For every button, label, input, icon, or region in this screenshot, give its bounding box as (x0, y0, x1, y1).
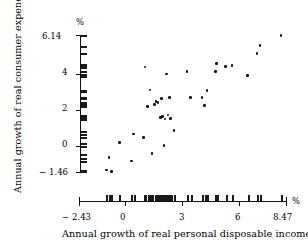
data-point (108, 156, 111, 159)
x-rug-mark-31 (226, 195, 228, 201)
y-rug-mark-19 (81, 102, 87, 104)
x-major-tick-2 (182, 201, 183, 206)
x-rug-mark-30 (217, 195, 219, 201)
y-rug-mark-31 (81, 67, 87, 69)
y-rug-mark-34 (81, 53, 87, 55)
y-rug-mark-2 (81, 161, 87, 163)
y-rug-mark-23 (81, 97, 87, 99)
data-point (130, 160, 133, 163)
data-point (146, 105, 149, 108)
x-rug-mark-35 (260, 195, 262, 201)
y-tick-label-minus1_46: − 1.46 (39, 167, 68, 177)
y-rug-mark-36 (81, 35, 87, 37)
data-point (173, 129, 176, 132)
x-tick-label-6: 6 (235, 212, 240, 222)
data-point (157, 101, 160, 104)
y-tick-label-6_14: 6.14 (42, 31, 61, 41)
y-rug-mark-3 (81, 158, 87, 160)
x-tick-label-3: 3 (179, 212, 184, 222)
y-rug-mark-35 (81, 46, 87, 48)
x-rug-mark-3 (119, 195, 121, 201)
y-rug-mark-29 (81, 71, 87, 73)
data-point (224, 65, 227, 68)
y-rug-mark-16 (81, 106, 87, 108)
y-rug-mark-12 (81, 118, 87, 120)
data-point (160, 97, 163, 100)
data-point (214, 70, 217, 73)
data-point (259, 44, 262, 47)
y-rug-mark-4 (81, 154, 87, 156)
x-rug-mark-0 (106, 195, 108, 201)
x-rug-mark-33 (248, 195, 250, 201)
data-point (163, 144, 166, 147)
data-point (168, 96, 171, 99)
x-rug-mark-2 (111, 195, 113, 201)
y-rug-mark-33 (81, 64, 87, 66)
data-point (256, 52, 259, 55)
y-axis-title: Annual growth of real consumer expenditu… (12, 0, 23, 193)
x-rug-mark-4 (131, 195, 133, 201)
x-rug-mark-23 (174, 195, 176, 201)
x-rug-mark-22 (171, 195, 173, 201)
x-rug-mark-36 (281, 195, 283, 201)
x-rug-mark-10 (152, 195, 154, 201)
data-point (206, 89, 209, 92)
data-point (110, 170, 113, 173)
scatter-plot-figure: % % Annual growth of real consumer expen… (0, 0, 308, 246)
data-point (144, 66, 147, 69)
y-rug-mark-25 (81, 90, 87, 92)
x-axis-unit-label: % (292, 196, 300, 206)
y-rug-mark-26 (81, 76, 87, 78)
y-rug-mark-9 (81, 131, 87, 133)
x-rug-mark-26 (202, 195, 204, 201)
y-rug-mark-6 (81, 143, 87, 145)
data-point (186, 70, 189, 73)
y-rug-mark-27 (81, 74, 87, 76)
x-tick-label-8_47: 8.47 (273, 212, 292, 222)
data-point (165, 73, 168, 76)
data-point (246, 74, 249, 77)
x-major-tick-1 (125, 201, 126, 206)
x-rug-mark-25 (191, 195, 193, 201)
data-point (151, 152, 154, 155)
x-tick-label-0: 0 (120, 212, 125, 222)
data-point (105, 169, 108, 172)
x-axis-cap-left (79, 197, 80, 206)
x-rug-mark-24 (187, 195, 189, 201)
y-axis-unit-label: % (76, 17, 84, 27)
data-point (164, 118, 167, 121)
y-major-tick-2 (76, 110, 81, 111)
y-rug-mark-7 (81, 137, 87, 139)
data-point (169, 117, 172, 120)
x-rug-mark-32 (232, 195, 234, 201)
x-rug-mark-34 (257, 195, 259, 201)
x-axis-title: Annual growth of real personal disposabl… (62, 228, 308, 239)
y-tick-label-4: 4 (62, 67, 67, 77)
data-point (201, 96, 204, 99)
x-rug-mark-7 (145, 195, 147, 201)
data-point (149, 89, 152, 92)
y-rug-mark-14 (81, 115, 87, 117)
y-rug-mark-5 (81, 146, 87, 148)
data-point (142, 136, 145, 139)
data-point (167, 114, 170, 117)
y-tick-label-2: 2 (62, 103, 67, 113)
data-point (203, 104, 206, 107)
y-tick-label-0: 0 (62, 139, 67, 149)
data-point (280, 34, 283, 37)
data-point (231, 64, 234, 67)
x-rug-mark-28 (207, 195, 209, 201)
x-rug-mark-5 (134, 195, 136, 201)
x-axis-cap-right (286, 197, 287, 206)
data-point (189, 96, 192, 99)
y-rug-mark-1 (81, 170, 87, 172)
data-point (132, 133, 135, 136)
data-point (118, 141, 121, 144)
data-point (153, 103, 156, 106)
x-tick-label-minus2_43: − 2.43 (62, 212, 91, 222)
data-point (215, 62, 218, 65)
y-rug-mark-8 (81, 134, 87, 136)
x-major-tick-3 (239, 201, 240, 206)
